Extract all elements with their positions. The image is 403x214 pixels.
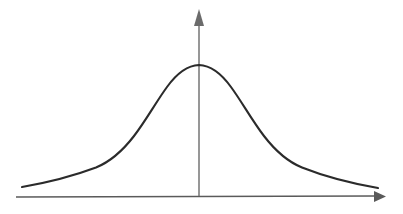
- figure-background: [0, 0, 403, 214]
- bell-curve-figure: [0, 0, 403, 214]
- figure-canvas: [0, 0, 403, 214]
